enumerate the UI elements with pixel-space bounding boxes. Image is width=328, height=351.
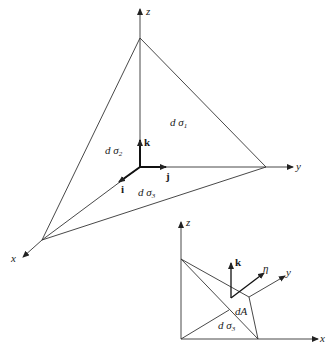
inset-x-axis-label: x (319, 332, 325, 344)
eta-label: η (263, 262, 268, 274)
edge-z-y (140, 38, 266, 167)
inset-face-label-d-sigma-3: d σ3 (218, 319, 236, 333)
inset-edge-y-x (249, 297, 258, 339)
inset-tetrahedron (181, 222, 318, 339)
y-axis-label: y (295, 160, 301, 172)
main-tetrahedron (23, 9, 293, 257)
inset-y-axis-label: y (285, 266, 291, 278)
edge-y-x (42, 167, 266, 240)
unit-vectors-main (119, 140, 166, 182)
i-vector (119, 167, 140, 182)
i-label: i (121, 183, 124, 195)
x-axis (23, 240, 42, 257)
z-axis-label: z (145, 5, 151, 17)
inset-z-axis-label: z (185, 216, 191, 228)
inset-k-label: k (235, 256, 242, 268)
x-axis-label: x (10, 252, 16, 264)
face-label-d-sigma-2: d σ2 (105, 144, 123, 158)
tetrahedron-diagram: z y x k j i d σ1 d σ2 d σ3 z x y k η dA … (0, 0, 328, 351)
dA-label: dA (235, 305, 248, 317)
k-label: k (144, 136, 151, 148)
j-label: j (165, 170, 170, 182)
inset-y-axis (249, 276, 285, 297)
unit-vectors-inset (231, 263, 264, 298)
face-label-d-sigma-3: d σ3 (138, 186, 156, 200)
face-label-d-sigma-1: d σ1 (170, 116, 187, 130)
eta-vector (231, 273, 264, 298)
edge-z-x (42, 38, 140, 240)
